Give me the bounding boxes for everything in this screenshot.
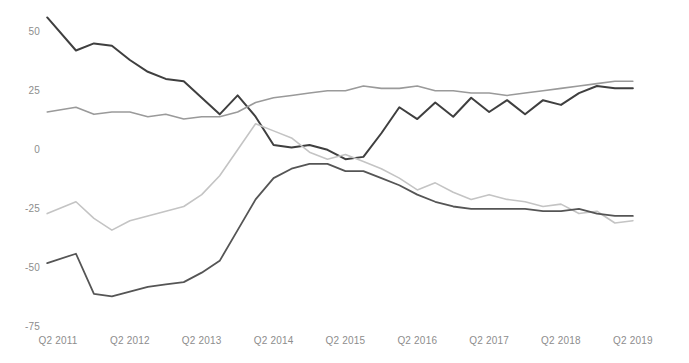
x-axis-tick-label: Q2 2018 — [526, 335, 596, 346]
x-axis-tick-label: Q2 2014 — [239, 335, 309, 346]
x-axis-tick-label: Q2 2012 — [95, 335, 165, 346]
series-line-3 — [47, 124, 633, 230]
y-axis-tick-label: -75 — [0, 321, 40, 332]
x-axis-tick-label: Q2 2016 — [382, 335, 452, 346]
line-chart: 50250-25-50-75 Q2 2011Q2 2012Q2 2013Q2 2… — [0, 0, 689, 363]
x-axis-tick-label: Q2 2013 — [167, 335, 237, 346]
series-line-1 — [47, 17, 633, 159]
x-axis-tick-label: Q2 2017 — [454, 335, 524, 346]
series-line-4 — [47, 164, 633, 296]
x-axis-tick-label: Q2 2011 — [23, 335, 93, 346]
y-axis-tick-label: 50 — [0, 26, 40, 37]
y-axis-tick-label: -50 — [0, 262, 40, 273]
y-axis-tick-label: 0 — [0, 144, 40, 155]
chart-plot-area — [0, 0, 689, 363]
x-axis-tick-label: Q2 2015 — [310, 335, 380, 346]
y-axis-tick-label: 25 — [0, 85, 40, 96]
x-axis-tick-label: Q2 2019 — [598, 335, 668, 346]
y-axis-tick-label: -25 — [0, 203, 40, 214]
